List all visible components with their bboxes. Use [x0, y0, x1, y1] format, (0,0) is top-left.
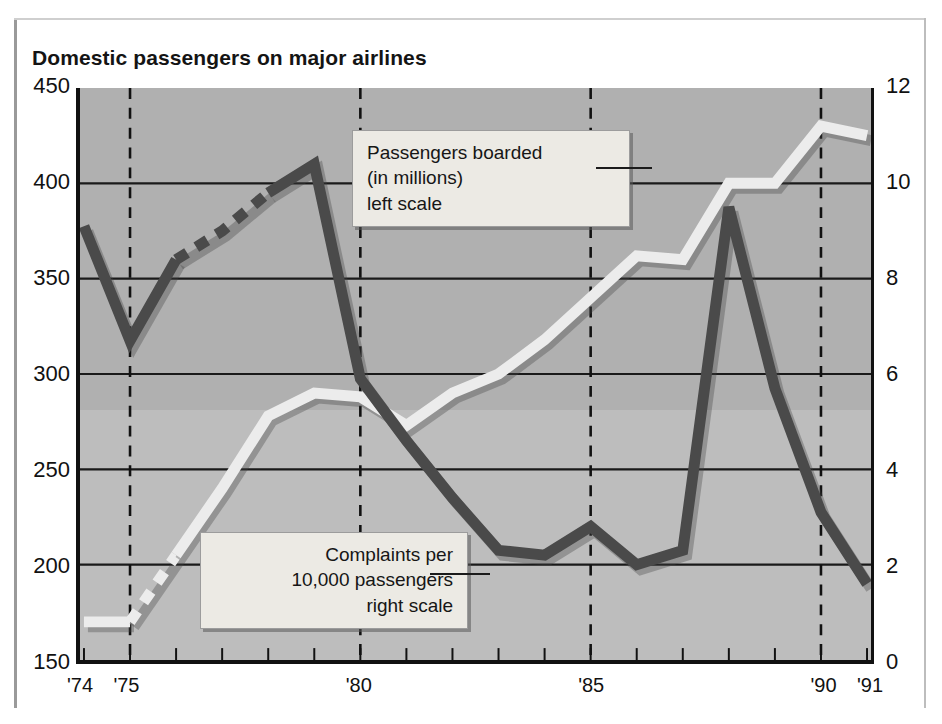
y-axis-left-tick-label: 200: [12, 553, 70, 579]
callout-complaints: Complaints per 10,000 passengers right s…: [200, 532, 468, 629]
callout-passengers-line1: Passengers boarded: [367, 140, 615, 165]
callout-complaints-pointer: [430, 562, 500, 602]
callout-passengers-line2: (in millions): [367, 165, 615, 190]
y-axis-left-tick-label: 450: [12, 73, 70, 99]
callout-complaints-line3: right scale: [215, 593, 453, 618]
x-axis-ticks: [84, 648, 867, 660]
y-axis-right-tick-label: 2: [886, 553, 926, 579]
callout-passengers-line3: left scale: [367, 191, 615, 216]
x-axis-tick-label: '85: [561, 674, 621, 697]
x-axis-tick-label: '75: [96, 674, 156, 697]
y-axis-left-tick-label: 300: [12, 361, 70, 387]
passengers-line-shadow: [134, 560, 180, 627]
y-axis-right-tick-label: 6: [886, 361, 926, 387]
y-axis-left-tick-label: 250: [12, 457, 70, 483]
page-title: Domestic passengers on major airlines: [32, 46, 427, 70]
page-border-top: [14, 18, 926, 20]
y-axis-left-tick-label: 350: [12, 265, 70, 291]
x-axis-tick-label: '91: [840, 674, 900, 697]
y-axis-left-tick-label: 400: [12, 169, 70, 195]
y-axis-right-tick-label: 0: [886, 649, 926, 675]
chart-page: Domestic passengers on major airlines 45…: [0, 0, 942, 724]
complaints-line: [176, 193, 268, 260]
y-axis-right-tick-label: 10: [886, 169, 926, 195]
callout-passengers-pointer: [596, 150, 666, 190]
callout-complaints-line2: 10,000 passengers: [215, 567, 453, 592]
y-axis-right-tick-label: 4: [886, 457, 926, 483]
y-axis-right-tick-label: 8: [886, 265, 926, 291]
y-axis-left-tick-label: 150: [12, 649, 70, 675]
y-axis-right-tick-label: 12: [886, 73, 926, 99]
callout-passengers: Passengers boarded (in millions) left sc…: [352, 130, 630, 227]
x-axis-tick-label: '80: [329, 674, 389, 697]
callout-complaints-line1: Complaints per: [215, 542, 453, 567]
